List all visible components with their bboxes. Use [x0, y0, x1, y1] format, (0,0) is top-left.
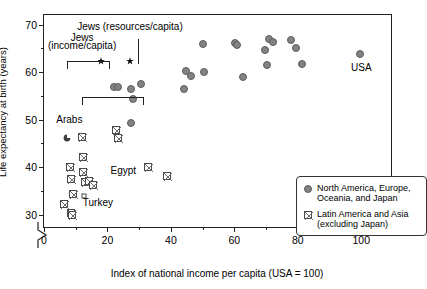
data-point-circle [180, 85, 188, 93]
y-minor-tick-55 [41, 96, 44, 97]
data-point-circle [187, 72, 195, 80]
annotation-jews-line2: (income/capita) [48, 41, 116, 52]
x-axis-title: Index of national income per capita (USA… [111, 268, 324, 279]
y-tick-40 [39, 167, 44, 168]
annotation-egypt: Egypt [111, 166, 137, 177]
x-minor-tick-10 [76, 227, 77, 230]
y-tick-50 [39, 120, 44, 121]
data-point-star [125, 51, 134, 60]
data-point-square [163, 172, 171, 180]
legend-entry-north-america: North America, Europe, Oceania, and Japa… [303, 183, 421, 204]
crossed-square-icon [303, 210, 313, 220]
data-point-square [66, 163, 74, 171]
jews-resources-leader [138, 39, 139, 64]
x-tick-label-60: 60 [229, 234, 241, 246]
x-tick-label-20: 20 [102, 234, 114, 246]
data-point-arabs [63, 128, 71, 136]
y-tick-70 [39, 25, 44, 26]
data-point-square [78, 133, 86, 141]
data-point-square [114, 134, 122, 142]
y-tick-label-70: 70 [25, 19, 37, 31]
legend-entry-latin-america: Latin America and Asia (excluding Japan) [303, 209, 421, 230]
data-point-square [79, 168, 87, 176]
data-point-circle [127, 85, 135, 93]
x-tick-label-0: 0 [41, 234, 47, 246]
y-minor-tick-45 [41, 143, 44, 144]
egypt-bracket [82, 97, 144, 105]
y-tick-label-30: 30 [25, 209, 37, 221]
data-point-circle [356, 50, 364, 58]
data-point-square [144, 163, 152, 171]
data-point-square [89, 181, 97, 189]
data-point-circle [287, 36, 295, 44]
data-point-square [112, 126, 120, 134]
data-point-circle [239, 73, 247, 81]
y-minor-tick-35 [41, 191, 44, 192]
data-point-square [60, 200, 68, 208]
y-axis-title: Life expectancy at birth (years) [0, 47, 8, 177]
data-point-circle [200, 68, 208, 76]
x-tick-label-40: 40 [165, 234, 177, 246]
x-minor-tick-70 [266, 227, 267, 230]
x-tick-40 [171, 227, 172, 232]
data-point-circle [292, 44, 300, 52]
data-point-square [67, 175, 75, 183]
y-tick-label-50: 50 [25, 114, 37, 126]
data-point-square [79, 153, 87, 161]
data-point-circle [269, 38, 277, 46]
legend-box: North America, Europe, Oceania, and Japa… [296, 176, 427, 236]
annotation-usa: USA [351, 63, 372, 74]
y-tick-30 [39, 215, 44, 216]
data-point-square [69, 190, 77, 198]
data-point-circle [263, 61, 271, 69]
x-tick-60 [234, 227, 235, 232]
data-point-circle [114, 83, 122, 91]
data-point-circle [127, 119, 135, 127]
filled-circle-icon [303, 184, 313, 194]
y-tick-60 [39, 72, 44, 73]
jews-income-bracket [67, 61, 110, 69]
data-point-circle [233, 41, 241, 49]
x-minor-tick-30 [139, 227, 140, 230]
x-tick-20 [107, 227, 108, 232]
data-point-circle [199, 40, 207, 48]
annotation-arabs: Arabs [56, 114, 82, 125]
y-tick-label-60: 60 [25, 66, 37, 78]
data-point-circle [137, 80, 145, 88]
x-minor-tick-50 [203, 227, 204, 230]
x-tick-0 [44, 227, 45, 232]
data-point-circle [261, 46, 269, 54]
plot-area: 3040506070020406080100 Jews (resources/c… [43, 14, 392, 228]
annotation-turkey: Turkey [83, 198, 113, 209]
data-point-square [68, 211, 76, 219]
legend-label-latin-america: Latin America and Asia (excluding Japan) [317, 209, 409, 230]
data-point-star [97, 51, 106, 60]
data-point-circle [298, 60, 306, 68]
y-tick-label-40: 40 [25, 161, 37, 173]
legend-label-north-america: North America, Europe, Oceania, and Japa… [317, 183, 411, 204]
y-minor-tick-65 [41, 48, 44, 49]
